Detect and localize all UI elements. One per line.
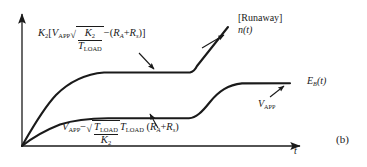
vapp-label: VAPP	[258, 99, 275, 110]
n-of-t-label: n(t)	[238, 25, 252, 35]
formula-upper-frac-den: TLOAD	[78, 40, 102, 53]
panel-label: (b)	[336, 134, 349, 145]
frac-den-sub: 2	[108, 138, 111, 145]
formula-lower-sqrt: √TLOADK2	[86, 120, 120, 146]
frac-den-sub: LOAD	[84, 44, 102, 51]
n-of-t-arg: (t)	[243, 24, 252, 35]
leader-line-upper-formula	[139, 53, 154, 69]
formula-upper-fraction: K2TLOAD	[78, 28, 102, 52]
frac-den-symbol: K	[101, 134, 108, 145]
upper-plateau-formula: K2[VAPP√K2TLOAD−(RA+Rs)]	[38, 26, 146, 52]
frac-num-sub: 2	[92, 32, 95, 39]
formula-upper-radicand: K2TLOAD	[76, 26, 104, 52]
formula-upper-frac-num: K2	[78, 28, 102, 40]
leader-line-vapp	[270, 86, 284, 97]
vapp-sub: APP	[264, 103, 275, 110]
formula-lower-frac-den: K2	[94, 134, 118, 147]
x-axis-label: t	[294, 146, 297, 156]
runaway-label: [Runaway]	[238, 13, 282, 23]
formula-lower-radicand: TLOADK2	[92, 120, 120, 146]
frac-num-symbol: K	[85, 27, 92, 38]
formula-upper-sqrt: √K2TLOAD	[70, 26, 104, 52]
figure-panel-b: K2[VAPP√K2TLOAD−(RA+Rs)] VAPP−√TLOADK2TL…	[0, 0, 367, 167]
eb-of-t-label: EB(t)	[307, 76, 326, 87]
formula-upper-bracket-close: ]	[142, 27, 146, 38]
lower-plateau-formula: VAPP−√TLOADK2TLOAD (RA+Rs)	[62, 120, 179, 146]
formula-upper-vapp-sub: APP	[58, 32, 70, 39]
formula-lower-vapp-sub: APP	[68, 126, 80, 133]
formula-lower-fraction: TLOADK2	[94, 122, 118, 146]
formula-lower-tload-sub: LOAD	[126, 126, 144, 133]
eb-arg: (t)	[317, 75, 326, 86]
formula-lower-paren-close: )	[175, 121, 179, 132]
frac-num-sub: LOAD	[100, 126, 118, 133]
formula-lower-frac-num: TLOAD	[94, 122, 118, 134]
formula-upper-k2: K	[38, 27, 45, 38]
